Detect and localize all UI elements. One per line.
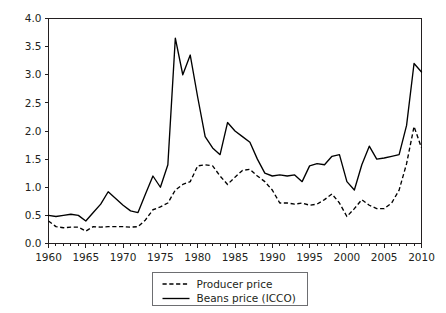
y-tick-label: 1.0 <box>25 181 42 193</box>
y-tick-label: 4.0 <box>25 12 42 24</box>
legend-label: Producer price <box>197 278 273 290</box>
x-tick-label: 1995 <box>296 251 323 263</box>
x-tick-label: 1965 <box>72 251 99 263</box>
y-tick-label: 3.0 <box>25 68 42 80</box>
x-tick-label: 1985 <box>222 251 249 263</box>
x-tick-label: 1990 <box>259 251 286 263</box>
x-axis: 1960196519701975198019851990199520002005… <box>35 244 435 263</box>
y-tick-label: 0.0 <box>25 237 42 249</box>
y-tick-label: 3.5 <box>25 40 42 52</box>
x-tick-label: 1960 <box>35 251 62 263</box>
y-axis: 0.00.51.01.52.02.53.03.54.0 <box>25 12 49 249</box>
x-tick-label: 2000 <box>334 251 361 263</box>
y-tick-label: 2.0 <box>25 125 42 137</box>
y-tick-label: 0.5 <box>25 209 42 221</box>
x-tick-label: 2010 <box>408 251 435 263</box>
x-tick-label: 1970 <box>110 251 137 263</box>
y-tick-label: 2.5 <box>25 97 42 109</box>
y-tick-label: 1.5 <box>25 153 42 165</box>
x-tick-label: 2005 <box>371 251 398 263</box>
series-line-beans-price-icco <box>49 38 422 221</box>
x-tick-label: 1980 <box>184 251 211 263</box>
cocoa-price-line-chart: 0.00.51.01.52.02.53.03.54.0 196019651970… <box>0 0 446 313</box>
series-line-producer-price <box>49 127 422 232</box>
x-tick-label: 1975 <box>147 251 174 263</box>
data-series-group <box>49 38 422 231</box>
chart-legend: Producer priceBeans price (ICCO) <box>153 273 308 306</box>
legend-label: Beans price (ICCO) <box>197 292 296 304</box>
